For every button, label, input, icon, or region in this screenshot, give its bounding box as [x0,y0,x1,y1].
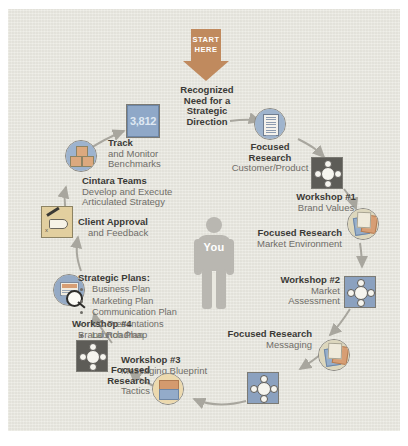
start-here-arrow: START HERE [183,29,229,81]
person-head [206,217,222,233]
workshop-1-icon [311,157,343,189]
start-here-label: START HERE [183,35,229,55]
step-recognized-need-label: Recognized Need for a Strategic Directio… [176,85,238,128]
strategic-plans-list: Business Plan Marketing Plan Communicati… [78,284,198,342]
list-item: Business Plan [92,284,198,296]
you-label: You [192,241,236,253]
metric-box-icon: 3,812 [126,104,160,138]
metric-value: 3,812 [127,105,159,137]
step-client-approval-label: Client Approval and Feedback [78,217,188,238]
step-focused-research-1-label: Focused Research Customer/Product [220,142,320,174]
list-item: VC Presentations [92,319,198,331]
workshop-2-icon [344,276,376,308]
research-papers-icon-2 [318,339,350,371]
strategic-plans-block: Strategic Plans: Business Plan Marketing… [78,272,198,342]
step-focused-research-2-label: Focused Research Market Environment [230,228,342,249]
step-focused-research-3-label: Focused Research Messaging [196,329,312,350]
person-left-leg [202,269,212,309]
tactics-stack-icon [152,373,184,405]
signing-hand-icon: x [41,206,73,238]
step-workshop-2-label: Workshop #2 Market Assessment [244,275,340,307]
person-right-leg [216,269,226,309]
list-item: Launch Plan [92,330,198,342]
step-cintara-teams-label: Cintara Teams Develop and Execute Articu… [82,176,212,208]
workshop-3-icon [247,372,279,404]
research-papers-icon-1 [347,208,379,240]
document-icon [254,108,286,140]
diagram-page: START HERE Recognized Need for a Strateg… [8,9,400,431]
arrow-point [183,61,229,81]
you-person-icon: You [192,217,236,309]
list-item: Communication Plan [92,307,198,319]
step-track-monitor-label: Track and Monitor Benchmarks [108,138,218,170]
workshop-4-icon [76,340,108,372]
list-item: Marketing Plan [92,296,198,308]
person-leg-gap [212,273,216,309]
strategic-plans-heading: Strategic Plans: [78,272,198,283]
blocks-icon [65,140,97,172]
